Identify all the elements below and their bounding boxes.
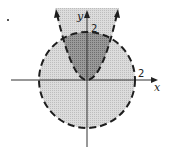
stray-mark [7, 19, 9, 21]
y-tick-label: 2 [91, 23, 97, 34]
x-axis-label: x [154, 81, 161, 94]
region-diagram: y 2 2 x [0, 0, 169, 149]
x-tick-label: 2 [138, 68, 144, 79]
y-axis-label: y [76, 10, 84, 23]
